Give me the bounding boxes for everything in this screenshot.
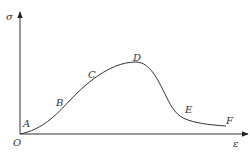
stress-strain-diagram: σ ε O A B C D E F (0, 0, 250, 161)
x-axis-label: ε (233, 138, 238, 149)
point-label-c: C (88, 69, 96, 80)
point-label-a: A (22, 118, 30, 129)
y-axis-label: σ (6, 11, 14, 22)
point-label-b: B (55, 97, 63, 108)
point-label-f: F (225, 115, 234, 126)
point-label-d: D (132, 52, 141, 63)
point-label-e: E (184, 104, 193, 115)
stress-strain-curve (20, 62, 226, 134)
origin-label: O (13, 137, 21, 148)
